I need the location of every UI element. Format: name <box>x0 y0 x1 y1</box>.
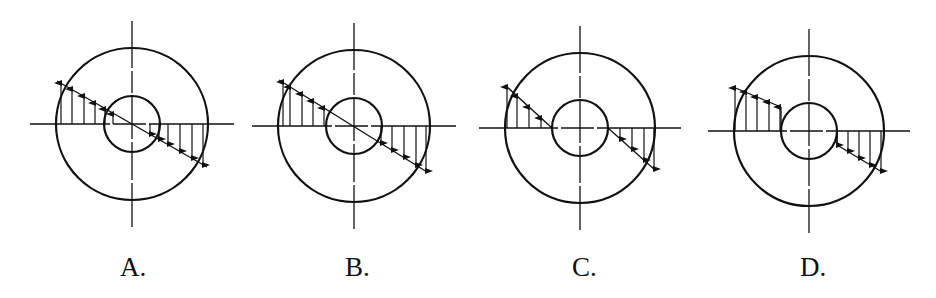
option-label-b: B. <box>345 252 370 282</box>
option-label-c: C. <box>572 252 597 282</box>
option-label-d: D. <box>800 252 826 282</box>
option-label-a: A. <box>120 252 146 282</box>
option-figure-c <box>479 26 681 230</box>
option-figure-d <box>708 29 910 233</box>
option-figure-a <box>30 21 234 227</box>
option-figure-b <box>252 23 456 229</box>
